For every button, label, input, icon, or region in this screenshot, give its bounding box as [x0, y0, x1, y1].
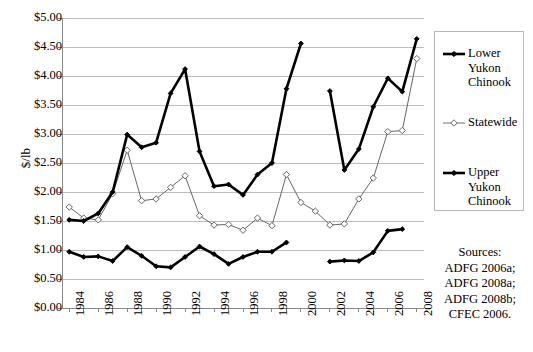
- x-tick-label: 1986: [103, 291, 115, 316]
- legend-label: UpperYukonChinook: [468, 165, 511, 209]
- legend-filled-diamond-icon: [441, 47, 467, 61]
- legend-filled-diamond-icon: [441, 166, 467, 180]
- x-tick-label: 1984: [74, 291, 86, 316]
- data-point-marker: [451, 51, 456, 56]
- legend-label-line: Statewide: [468, 115, 517, 130]
- sources-note: Sources:ADFG 2006a;ADFG 2008a;ADFG 2008b…: [430, 245, 530, 323]
- legend-label-line: Upper: [468, 165, 511, 180]
- data-point-marker: [451, 120, 457, 126]
- legend-entry: Statewide: [441, 115, 517, 130]
- data-point-marker: [451, 170, 456, 175]
- legend-label-line: Yukon: [468, 180, 511, 195]
- legend-label-line: Lower: [468, 46, 511, 61]
- x-tick-label: 1990: [161, 291, 173, 316]
- chart-root: $/lb $0.00$0.50$1.00$1.50$2.00$2.50$3.00…: [0, 0, 533, 352]
- x-tick-label: 1994: [219, 291, 231, 316]
- x-tick-label: 2004: [364, 291, 376, 316]
- x-tick-label: 1998: [277, 291, 289, 316]
- x-tick-label: 1992: [190, 291, 202, 316]
- legend-entry: LowerYukonChinook: [441, 46, 511, 90]
- chart-legend: LowerYukonChinookStatewideUpperYukonChin…: [434, 31, 524, 211]
- legend-label-line: Yukon: [468, 61, 511, 76]
- legend-label: Statewide: [468, 115, 517, 130]
- x-tick-label: 2000: [306, 291, 318, 316]
- x-tick-label: 1988: [132, 291, 144, 316]
- sources-line: CFEC 2006.: [430, 307, 530, 323]
- legend-open-diamond-icon: [441, 116, 467, 130]
- sources-line: ADFG 2006a;: [430, 261, 530, 277]
- sources-line: ADFG 2008b;: [430, 292, 530, 308]
- sources-line: Sources:: [430, 245, 530, 261]
- x-tick-label: 2006: [393, 291, 405, 316]
- x-tick-label: 2002: [335, 291, 347, 316]
- legend-label: LowerYukonChinook: [468, 46, 511, 90]
- legend-label-line: Chinook: [468, 194, 511, 209]
- legend-entry: UpperYukonChinook: [441, 165, 511, 209]
- legend-label-line: Chinook: [468, 75, 511, 90]
- x-tick-label: 1996: [248, 291, 260, 316]
- sources-line: ADFG 2008a;: [430, 276, 530, 292]
